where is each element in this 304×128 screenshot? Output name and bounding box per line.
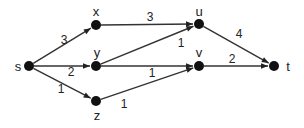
edge-z-v	[101, 68, 194, 99]
edge-weight-y-v: 1	[149, 67, 156, 80]
edge-weight-s-x: 3	[61, 34, 68, 47]
node-y	[91, 61, 101, 71]
node-label-u: u	[195, 5, 202, 18]
node-label-t: t	[286, 60, 290, 73]
node-v	[194, 61, 204, 71]
node-u	[194, 19, 204, 29]
edge-weight-s-z: 1	[58, 83, 65, 96]
edge-weight-u-t: 4	[236, 28, 243, 41]
node-z	[91, 96, 101, 106]
edge-weight-z-v: 1	[121, 98, 128, 111]
edge-weight-v-t: 2	[229, 53, 236, 66]
edge-weight-s-y: 2	[68, 66, 75, 79]
node-s	[24, 61, 34, 71]
node-label-v: v	[196, 46, 203, 59]
node-label-y: y	[94, 46, 101, 59]
edge-weight-y-u: 1	[178, 37, 185, 50]
node-x	[91, 20, 101, 30]
node-t	[269, 61, 279, 71]
edge-x-u	[101, 24, 193, 25]
node-label-z: z	[94, 109, 101, 122]
node-label-x: x	[93, 5, 100, 18]
edge-weight-x-u: 3	[147, 11, 154, 24]
node-label-s: s	[15, 60, 22, 73]
graph-diagram: 321311142sxyzuvt	[0, 0, 304, 128]
